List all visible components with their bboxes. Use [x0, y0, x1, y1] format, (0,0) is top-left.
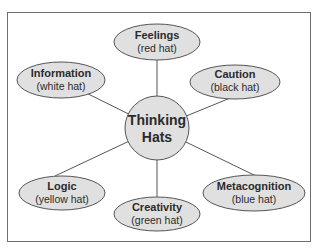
node-subtitle: (red hat) [137, 42, 177, 54]
center-node: Thinking Hats [125, 96, 189, 160]
node-logic: Logic (yellow hat) [19, 176, 105, 210]
node-title: Feelings [135, 29, 180, 41]
node-creativity: Creativity (green hat) [114, 197, 200, 231]
node-caution: Caution (black hat) [190, 65, 280, 99]
center-title-line2: Hats [142, 129, 173, 145]
node-title: Caution [215, 68, 256, 80]
node-subtitle: (white hat) [36, 80, 85, 92]
thinking-hats-diagram: Feelings (red hat) Caution (black hat) M… [0, 0, 324, 251]
center-title-line1: Thinking [128, 112, 186, 128]
node-feelings: Feelings (red hat) [114, 24, 200, 60]
node-title: Information [31, 67, 92, 79]
node-title: Creativity [132, 201, 183, 213]
node-title: Logic [47, 180, 76, 192]
node-title: Metacognition [217, 180, 292, 192]
node-information: Information (white hat) [17, 62, 105, 98]
diagram-canvas: Feelings (red hat) Caution (black hat) M… [0, 0, 324, 251]
node-subtitle: (blue hat) [232, 193, 276, 205]
node-metacognition: Metacognition (blue hat) [203, 175, 305, 211]
node-subtitle: (green hat) [131, 214, 182, 226]
node-subtitle: (black hat) [210, 81, 259, 93]
node-subtitle: (yellow hat) [35, 193, 89, 205]
